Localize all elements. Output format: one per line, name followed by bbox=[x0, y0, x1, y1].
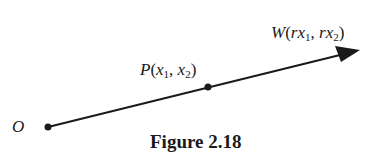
point-w-coord2: rx bbox=[319, 23, 333, 42]
point-p-dot bbox=[205, 84, 212, 91]
point-w-separator: , bbox=[311, 23, 320, 42]
origin-point-dot bbox=[45, 124, 52, 131]
point-p-coord1: x bbox=[156, 60, 164, 79]
point-p-name: P bbox=[140, 60, 150, 79]
point-w-label: W(rx1, rx2) bbox=[271, 24, 344, 41]
point-p-separator: , bbox=[169, 60, 178, 79]
point-p-close-paren: ) bbox=[191, 60, 197, 79]
origin-label: O bbox=[12, 118, 24, 135]
point-w-name: W bbox=[271, 23, 285, 42]
point-w-coord1: rx bbox=[291, 23, 305, 42]
figure-caption: Figure 2.18 bbox=[150, 132, 241, 151]
point-p-label: P(x1, x2) bbox=[140, 61, 196, 78]
figure: O P(x1, x2) W(rx1, rx2) Figure 2.18 bbox=[0, 0, 383, 156]
point-w-close-paren: ) bbox=[339, 23, 345, 42]
origin-name: O bbox=[12, 117, 24, 136]
arrowhead-icon bbox=[335, 46, 360, 62]
